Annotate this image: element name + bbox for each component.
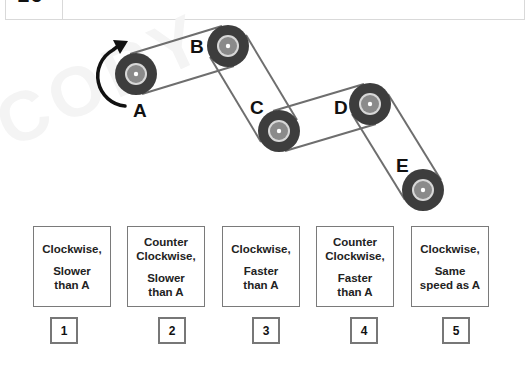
- option-direction: Counter Clockwise,: [131, 235, 201, 263]
- gear-label-a: A: [133, 100, 147, 122]
- pulley-d: [349, 83, 391, 125]
- option-direction: Clockwise,: [42, 242, 101, 256]
- option-card-3[interactable]: Clockwise, Faster than A: [222, 226, 300, 307]
- option-number-2[interactable]: 2: [158, 317, 186, 344]
- pulley-b: [207, 25, 249, 67]
- option-speed: Faster than A: [330, 271, 380, 299]
- pulley-a: [115, 53, 157, 95]
- option-speed: Faster than A: [236, 264, 286, 292]
- option-direction: Clockwise,: [231, 242, 290, 256]
- option-card-5[interactable]: Clockwise, Same speed as A: [411, 226, 489, 307]
- gear-label-e: E: [396, 155, 409, 177]
- option-number-4[interactable]: 4: [350, 317, 378, 344]
- option-speed: Slower than A: [141, 271, 191, 299]
- gear-label-c: C: [250, 97, 264, 119]
- option-speed: Slower than A: [47, 264, 97, 292]
- option-direction: Clockwise,: [420, 242, 479, 256]
- option-card-4[interactable]: Counter Clockwise, Faster than A: [316, 226, 394, 307]
- gear-label-d: D: [334, 97, 348, 119]
- option-number-3[interactable]: 3: [252, 317, 280, 344]
- option-number-5[interactable]: 5: [442, 317, 470, 344]
- option-number-1[interactable]: 1: [50, 317, 78, 344]
- pulley-c: [258, 110, 300, 152]
- option-card-1[interactable]: Clockwise, Slower than A: [33, 226, 111, 307]
- option-direction: Counter Clockwise,: [320, 235, 390, 263]
- option-card-2[interactable]: Counter Clockwise, Slower than A: [127, 226, 205, 307]
- gear-label-b: B: [190, 36, 204, 58]
- option-speed: Same speed as A: [417, 264, 483, 292]
